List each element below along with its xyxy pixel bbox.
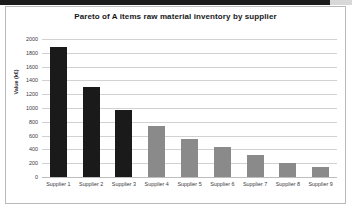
bar-slot	[239, 39, 272, 177]
y-axis-tick-label: 200	[29, 160, 38, 166]
x-axis-tick-label: Supplier 4	[140, 181, 173, 187]
x-axis-tick-label: Supplier 1	[42, 181, 75, 187]
plot-area: 2000180016001400120010008006004002000	[42, 39, 337, 177]
bar-slot	[75, 39, 108, 177]
y-axis-tick-label: 1800	[26, 50, 38, 56]
y-axis-title: Value (k€)	[13, 59, 19, 105]
bar[interactable]	[50, 47, 67, 177]
y-axis-tick-label: 2000	[26, 36, 38, 42]
bar-slot	[271, 39, 304, 177]
bar[interactable]	[214, 147, 231, 177]
chart-container[interactable]: Pareto of A items raw material inventory…	[5, 6, 346, 204]
bar-series	[42, 39, 337, 177]
x-axis-tick-label: Supplier 7	[239, 181, 272, 187]
gridline: 0	[42, 177, 337, 178]
y-axis-tick-label: 1400	[26, 77, 38, 83]
x-axis-tick-label: Supplier 2	[75, 181, 108, 187]
bar-slot	[42, 39, 75, 177]
bar[interactable]	[115, 110, 132, 177]
y-axis-tick-label: 800	[29, 119, 38, 125]
y-axis-tick-label: 400	[29, 146, 38, 152]
bar[interactable]	[279, 163, 296, 177]
bar-slot	[173, 39, 206, 177]
y-axis-tick-label: 1600	[26, 64, 38, 70]
window-top-strip	[0, 0, 352, 5]
screenshot-root: Pareto of A items raw material inventory…	[0, 0, 352, 209]
bar[interactable]	[247, 155, 264, 177]
y-axis-tick-label: 600	[29, 133, 38, 139]
y-axis-tick-label: 1200	[26, 91, 38, 97]
bar-slot	[108, 39, 141, 177]
bar[interactable]	[181, 139, 198, 177]
x-axis-tick-label: Supplier 6	[206, 181, 239, 187]
bar[interactable]	[312, 167, 329, 177]
bar[interactable]	[148, 126, 165, 177]
x-axis-tick-label: Supplier 8	[271, 181, 304, 187]
y-axis-tick-label: 1000	[26, 105, 38, 111]
x-axis-tick-label: Supplier 5	[173, 181, 206, 187]
bar[interactable]	[83, 87, 100, 177]
x-axis-labels: Supplier 1Supplier 2Supplier 3Supplier 4…	[42, 181, 337, 187]
bar-slot	[304, 39, 337, 177]
chart-title: Pareto of A items raw material inventory…	[6, 12, 345, 21]
x-axis-tick-label: Supplier 9	[304, 181, 337, 187]
bar-slot	[206, 39, 239, 177]
window-top-strip-right	[330, 0, 352, 5]
y-axis-tick-label: 0	[35, 174, 38, 180]
bar-slot	[140, 39, 173, 177]
x-axis-tick-label: Supplier 3	[108, 181, 141, 187]
